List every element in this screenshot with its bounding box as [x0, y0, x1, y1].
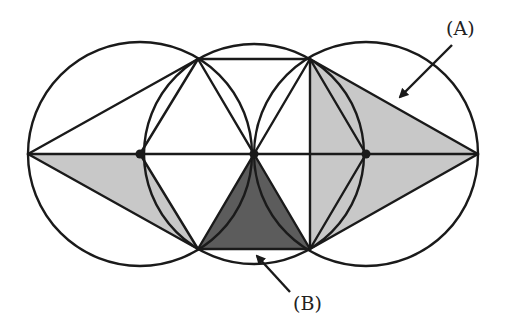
line-left-top [28, 59, 198, 154]
arrow-a [400, 45, 452, 97]
label-b: (B) [293, 292, 322, 314]
center-dot-left [136, 150, 145, 159]
geometry-diagram: (A) (B) [0, 0, 515, 330]
hex-edge-lc-top [140, 59, 198, 154]
center-dot-middle [250, 150, 259, 159]
center-dot-right [362, 150, 371, 159]
label-a: (A) [446, 17, 475, 39]
